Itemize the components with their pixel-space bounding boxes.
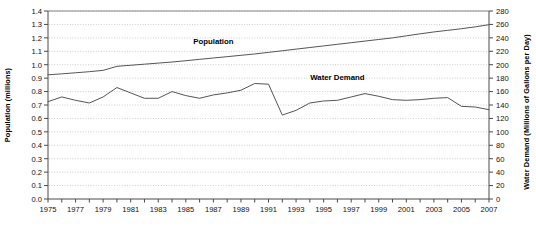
right-axis-tick-label: 0 [496, 195, 500, 204]
x-axis-tick-label: 1997 [343, 205, 360, 214]
series-inline-label: Water Demand [310, 73, 365, 82]
left-axis-tick-label: 1.0 [31, 61, 42, 70]
x-axis-tick-label: 2001 [398, 205, 415, 214]
water-demand-line [48, 84, 489, 116]
x-axis-tick-label: 1995 [315, 205, 332, 214]
right-axis-tick-label: 280 [496, 7, 509, 16]
population-line [48, 25, 489, 75]
left-axis-tick-label: 1.3 [31, 20, 42, 29]
right-axis-tick-labels: 020406080100120140160180200220240260280 [496, 7, 509, 204]
left-axis-tick-label: 0.2 [31, 168, 42, 177]
left-axis-tick-label: 0.0 [31, 195, 42, 204]
left-axis-tick-label: 1.4 [31, 7, 42, 16]
left-axis-tick-label: 0.6 [31, 114, 42, 123]
left-axis-tick-label: 0.7 [31, 101, 42, 110]
left-axis-tick-labels: 0.00.10.20.30.40.50.60.70.80.91.01.11.21… [31, 7, 42, 204]
x-axis-tick-label: 1977 [67, 205, 84, 214]
left-axis-title: Population (millions) [3, 67, 12, 142]
left-axis-tick-label: 0.4 [31, 141, 42, 150]
x-axis-tick-label: 1987 [205, 205, 222, 214]
right-axis-tick-label: 200 [496, 61, 509, 70]
x-axis-tick-label: 1991 [260, 205, 277, 214]
right-axis-tick-label: 140 [496, 101, 509, 110]
x-axis-tick-label: 1975 [40, 205, 57, 214]
right-axis-tickmarks [489, 11, 493, 199]
right-axis-tick-label: 80 [496, 141, 504, 150]
left-axis-tick-label: 0.8 [31, 87, 42, 96]
x-axis-tick-label: 1981 [122, 205, 139, 214]
right-axis-title: Water Demand (Millions of Gallons per Da… [522, 34, 531, 190]
right-axis-tick-label: 120 [496, 114, 509, 123]
x-axis-tick-label: 1999 [370, 205, 387, 214]
left-axis-tick-label: 1.2 [31, 34, 42, 43]
left-axis-tick-label: 0.5 [31, 128, 42, 137]
x-axis-tickmarks [48, 199, 489, 203]
right-axis-tick-label: 240 [496, 34, 509, 43]
x-axis-tick-labels: 1975197719791981198319851987198919911993… [40, 205, 498, 214]
x-axis-tick-label: 1989 [232, 205, 249, 214]
right-axis-tick-label: 260 [496, 20, 509, 29]
x-axis-tick-label: 2003 [425, 205, 442, 214]
left-axis-tickmarks [44, 11, 48, 199]
left-axis-tick-label: 0.1 [31, 181, 42, 190]
right-axis-tick-label: 220 [496, 47, 509, 56]
x-axis-tick-label: 1983 [150, 205, 167, 214]
x-axis-tick-label: 1985 [177, 205, 194, 214]
right-axis-tick-label: 160 [496, 87, 509, 96]
x-axis-tick-label: 1993 [288, 205, 305, 214]
x-axis-tick-label: 2005 [453, 205, 470, 214]
gridlines-group [48, 11, 489, 186]
right-axis-tick-label: 40 [496, 168, 504, 177]
water-demand-population-chart: 0.00.10.20.30.40.50.60.70.80.91.01.11.21… [0, 0, 536, 227]
chart-canvas: 0.00.10.20.30.40.50.60.70.80.91.01.11.21… [0, 0, 536, 227]
right-axis-tick-label: 180 [496, 74, 509, 83]
right-axis-tick-label: 20 [496, 181, 504, 190]
left-axis-tick-label: 0.3 [31, 155, 42, 164]
right-axis-tick-label: 60 [496, 155, 504, 164]
right-axis-tick-label: 100 [496, 128, 509, 137]
series-inline-label: Population [193, 37, 234, 46]
left-axis-tick-label: 0.9 [31, 74, 42, 83]
x-axis-tick-label: 2007 [481, 205, 498, 214]
left-axis-tick-label: 1.1 [31, 47, 42, 56]
x-axis-tick-label: 1979 [95, 205, 112, 214]
